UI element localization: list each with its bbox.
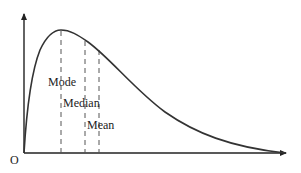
origin-label: O	[10, 154, 19, 166]
skewed-distribution-diagram	[0, 0, 301, 173]
median-label: Median	[63, 97, 100, 109]
mode-label: Mode	[48, 76, 76, 88]
mean-label: Mean	[87, 119, 114, 131]
distribution-curve	[24, 30, 285, 153]
